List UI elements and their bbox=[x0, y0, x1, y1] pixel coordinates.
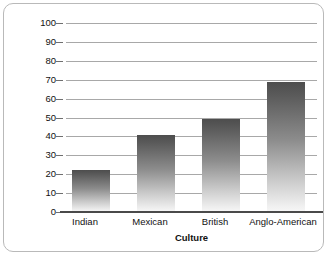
x-tick-label-indian: Indian bbox=[53, 216, 117, 228]
y-tick-mark bbox=[56, 118, 63, 119]
gridline-90 bbox=[66, 42, 317, 43]
x-tick-label-mexican: Mexican bbox=[118, 216, 182, 228]
y-tick-mark bbox=[56, 61, 63, 62]
x-axis-title: Culture bbox=[66, 232, 317, 244]
y-tick-mark bbox=[56, 99, 63, 100]
y-tick-mark bbox=[56, 23, 63, 24]
bar-british bbox=[202, 119, 240, 212]
bar-mexican bbox=[137, 135, 175, 212]
bar-indian bbox=[72, 170, 110, 212]
gridline-80 bbox=[66, 61, 317, 62]
chart-frame: Percentage of Families with High EE 100 … bbox=[3, 3, 324, 252]
x-tick-label-british: British bbox=[183, 216, 247, 228]
y-tick-mark bbox=[56, 42, 63, 43]
plot-area bbox=[66, 23, 317, 212]
gridline-70 bbox=[66, 80, 317, 81]
y-tick-mark bbox=[56, 80, 63, 81]
bar-anglo-american bbox=[267, 82, 305, 212]
x-axis-baseline bbox=[60, 211, 323, 213]
y-tick-mark bbox=[56, 193, 63, 194]
y-tick-mark bbox=[56, 155, 63, 156]
y-tick-mark bbox=[56, 136, 63, 137]
x-tick-label-anglo-american: Anglo-American bbox=[243, 216, 323, 228]
y-tick-mark bbox=[56, 174, 63, 175]
y-axis-tick-marks bbox=[4, 23, 66, 212]
gridline-100 bbox=[66, 23, 317, 24]
